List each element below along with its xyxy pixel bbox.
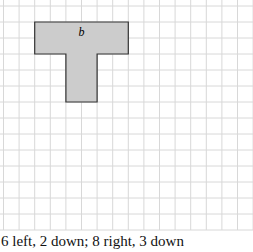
caption: 6 left, 2 down; 8 right, 3 down — [1, 233, 184, 250]
shape-label: b — [79, 25, 85, 39]
grid-diagram: b — [0, 0, 253, 232]
